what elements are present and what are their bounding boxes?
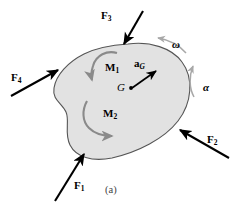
- moment-1-label: M1: [105, 62, 119, 73]
- diagram-canvas: [0, 0, 232, 210]
- acceleration-label: aG: [134, 58, 145, 69]
- angular-velocity-label: ω: [172, 39, 180, 50]
- acceleration-label-text: a: [134, 57, 140, 69]
- free-body-diagram-figure: F1 F2 F3 F4 M1 M2 aG G ω α (a): [0, 0, 232, 210]
- force-2-label-subscript: 2: [214, 138, 218, 147]
- force-2-arrow: [180, 130, 229, 158]
- force-1-label-subscript: 1: [81, 184, 85, 193]
- force-2-label: F2: [207, 134, 217, 145]
- force-3-arrow: [124, 11, 143, 44]
- angular-acceleration-label: α: [203, 82, 209, 93]
- angular-acceleration-arc-arrow: [190, 66, 194, 97]
- figure-caption: (a): [105, 185, 117, 196]
- mass-center-point: [129, 86, 133, 90]
- force-4-label-text: F: [11, 71, 18, 83]
- force-2-label-text: F: [207, 133, 214, 145]
- force-3-label-subscript: 3: [108, 14, 112, 23]
- rigid-body-outline: [54, 43, 190, 159]
- moment-1-label-subscript: 1: [115, 66, 119, 75]
- force-1-label-text: F: [74, 179, 81, 191]
- force-4-label: F4: [11, 72, 21, 83]
- mass-center-label: G: [117, 82, 125, 93]
- acceleration-label-subscript: G: [140, 62, 145, 71]
- force-3-label-text: F: [101, 9, 108, 21]
- moment-1-label-text: M: [105, 61, 115, 73]
- moment-2-label: M2: [103, 108, 117, 119]
- force-3-label: F3: [101, 10, 111, 21]
- moment-2-label-text: M: [103, 107, 113, 119]
- moment-2-label-subscript: 2: [113, 112, 117, 121]
- force-1-arrow: [55, 154, 84, 201]
- force-1-label: F1: [74, 180, 84, 191]
- force-4-label-subscript: 4: [18, 76, 22, 85]
